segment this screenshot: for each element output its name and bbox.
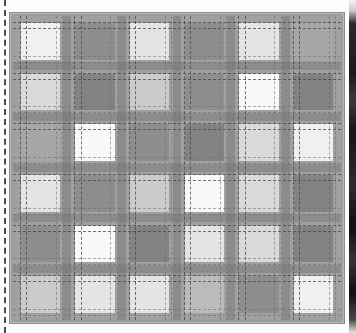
plaid-cell-fill-r6-c1: [21, 276, 60, 312]
plaid-cell-fill-r2-c1: [21, 74, 60, 110]
plaid-cell: [68, 168, 123, 219]
dark-edge-strip: [349, 0, 356, 333]
plaid-cell: [286, 219, 341, 270]
plaid-cell-fill-r1-c2: [75, 23, 114, 59]
plaid-cell: [122, 67, 177, 118]
plaid-cell-fill-r1-c4: [185, 23, 224, 59]
plaid-cell: [232, 117, 287, 168]
plaid-cell: [13, 168, 68, 219]
plaid-inner-area: [13, 16, 341, 320]
plaid-cell: [177, 269, 232, 320]
plaid-cell-fill-r4-c4: [185, 175, 224, 211]
plaid-cell-fill-r6-c2: [75, 276, 114, 312]
plaid-cell-fill-r1-c3: [130, 23, 169, 59]
plaid-cell: [177, 16, 232, 67]
plaid-cell: [13, 117, 68, 168]
plaid-cell-fill-r5-c3: [130, 226, 169, 262]
plaid-cell: [232, 219, 287, 270]
plaid-cell: [122, 269, 177, 320]
plaid-cell: [122, 16, 177, 67]
plaid-cell: [122, 168, 177, 219]
plaid-cell-fill-r3-c3: [130, 124, 169, 160]
plaid-cell-fill-r6-c5: [239, 276, 278, 312]
plaid-cell-fill-r5-c1: [21, 226, 60, 262]
plaid-cell-fill-r4-c6: [294, 175, 333, 211]
dashed-guide-line: [4, 0, 6, 333]
plaid-cell: [286, 117, 341, 168]
plaid-cell: [232, 67, 287, 118]
plaid-cell-fill-r1-c6: [294, 23, 333, 59]
plaid-cell-fill-r3-c4: [185, 124, 224, 160]
plaid-cell: [286, 168, 341, 219]
plaid-cell: [177, 67, 232, 118]
plaid-cell: [286, 16, 341, 67]
plaid-cell-fill-r4-c1: [21, 175, 60, 211]
plaid-cell: [68, 269, 123, 320]
plaid-cell-fill-r5-c5: [239, 226, 278, 262]
plaid-cell: [68, 117, 123, 168]
plaid-cell: [232, 168, 287, 219]
plaid-cell-fill-r5-c4: [185, 226, 224, 262]
plaid-cell: [177, 168, 232, 219]
plaid-cell-fill-r6-c4: [185, 276, 224, 312]
plaid-cell-grid: [13, 16, 341, 320]
plaid-cell: [13, 269, 68, 320]
plaid-cell-fill-r5-c6: [294, 226, 333, 262]
plaid-cell: [122, 219, 177, 270]
plaid-cell-fill-r5-c2: [75, 226, 114, 262]
plaid-cell: [68, 16, 123, 67]
plaid-cell-fill-r2-c2: [75, 74, 114, 110]
plaid-cell-fill-r4-c5: [239, 175, 278, 211]
plaid-cell-fill-r6-c6: [294, 276, 333, 312]
plaid-cell: [232, 16, 287, 67]
plaid-cell: [286, 269, 341, 320]
plaid-cell: [177, 117, 232, 168]
plaid-cell: [122, 117, 177, 168]
plaid-cell-fill-r2-c3: [130, 74, 169, 110]
plaid-cell: [13, 16, 68, 67]
plaid-cell-fill-r2-c6: [294, 74, 333, 110]
plaid-cell-fill-r4-c3: [130, 175, 169, 211]
plaid-cell-fill-r3-c2: [75, 124, 114, 160]
plaid-cell: [68, 219, 123, 270]
plaid-cell-fill-r1-c1: [21, 23, 60, 59]
plaid-cell-fill-r1-c5: [239, 23, 278, 59]
plaid-cell-fill-r2-c5: [239, 74, 278, 110]
plaid-cell-fill-r3-c1: [21, 124, 60, 160]
plaid-cell-fill-r2-c4: [185, 74, 224, 110]
plaid-cell-fill-r3-c6: [294, 124, 333, 160]
plaid-cell-fill-r6-c3: [130, 276, 169, 312]
plaid-frame: [9, 12, 345, 324]
plaid-cell: [286, 67, 341, 118]
plaid-cell: [232, 269, 287, 320]
screenshot-canvas: [0, 0, 356, 333]
plaid-cell-fill-r3-c5: [239, 124, 278, 160]
plaid-cell: [13, 67, 68, 118]
plaid-cell: [68, 67, 123, 118]
plaid-cell: [13, 219, 68, 270]
plaid-cell: [177, 219, 232, 270]
plaid-cell-fill-r4-c2: [75, 175, 114, 211]
